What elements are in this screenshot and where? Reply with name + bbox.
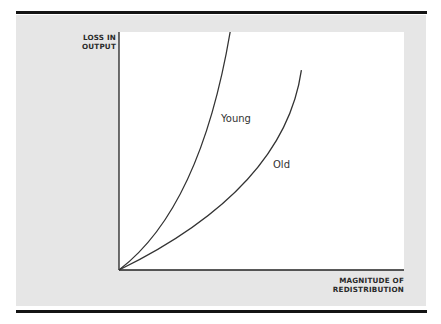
plot-area — [119, 32, 404, 270]
y-axis-label-line-2: OUTPUT — [82, 42, 116, 51]
y-axis-label-line-1: LOSS IN — [82, 33, 116, 42]
label-young: Young — [221, 113, 251, 124]
x-axis-label: MAGNITUDE OF REDISTRIBUTION — [333, 276, 404, 294]
x-axis-label-line-2: REDISTRIBUTION — [333, 285, 404, 294]
x-axis-label-line-1: MAGNITUDE OF — [333, 276, 404, 285]
bottom-rule — [16, 310, 427, 313]
label-old: Old — [273, 159, 290, 170]
y-axis-label: LOSS IN OUTPUT — [82, 33, 116, 51]
